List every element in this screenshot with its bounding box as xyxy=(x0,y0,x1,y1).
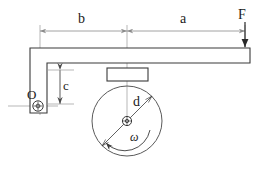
brake-shoe xyxy=(107,68,148,81)
dimension-a-label: a xyxy=(180,12,186,26)
brake-shoe-rect xyxy=(107,68,148,81)
omega-arc-arrow xyxy=(106,130,150,151)
pivot-joint-O xyxy=(33,101,43,111)
brake-mechanism-drawing xyxy=(0,0,259,173)
rotation-indicator xyxy=(106,130,150,151)
dimension-b-label: b xyxy=(78,12,85,26)
pivot-o-label: O xyxy=(27,88,36,101)
force-f-label: F xyxy=(238,8,246,22)
diameter-d-label: d xyxy=(133,95,140,109)
drum-axle-center xyxy=(122,116,131,125)
dimension-c xyxy=(47,70,74,104)
dimension-c-label: c xyxy=(63,79,69,92)
brake-mechanism-diagram: b a F c O d ω xyxy=(0,0,259,173)
angular-velocity-label: ω xyxy=(130,131,138,143)
